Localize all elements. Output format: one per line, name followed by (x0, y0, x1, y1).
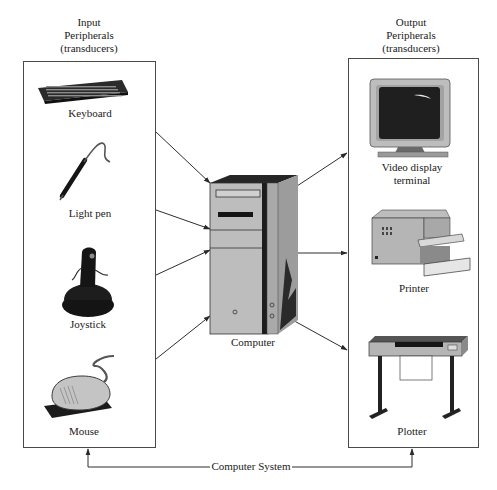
light-pen-label: Light pen (60, 207, 120, 220)
keyboard-icon (38, 80, 128, 104)
printer-label: Printer (384, 282, 444, 295)
computer-label: Computer (218, 336, 288, 349)
keyboard-label: Keyboard (60, 107, 120, 120)
diagram-canvas (0, 0, 497, 490)
input-arrows (156, 132, 210, 359)
label-line: terminal (374, 174, 450, 187)
printer-icon (372, 210, 470, 276)
mouse-label: Mouse (54, 425, 114, 438)
plotter-label: Plotter (382, 425, 442, 438)
plotter-icon (369, 336, 468, 419)
joystick-icon (62, 248, 114, 318)
computer-system-label: Computer System (210, 460, 292, 473)
computer-tower-icon (210, 175, 298, 334)
monitor-icon (370, 79, 450, 157)
mouse-icon (44, 356, 114, 418)
video-display-label: Video display terminal (374, 161, 450, 187)
label-line: Video display (374, 161, 450, 174)
light-pen-icon (60, 143, 110, 200)
joystick-label: Joystick (58, 318, 118, 331)
